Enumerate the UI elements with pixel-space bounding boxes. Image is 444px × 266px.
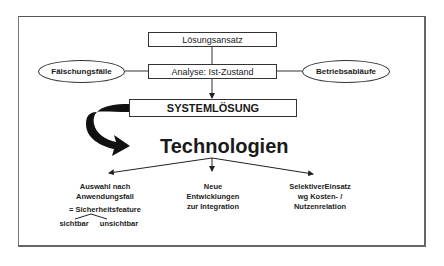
curved-arrow-icon	[86, 104, 130, 156]
branch-2-line-1: Neue	[182, 182, 244, 192]
forgery-cases-label: Fälschungsfälle	[51, 67, 111, 76]
branch-3-line-1: SelektiverEinsatz	[282, 182, 358, 192]
operations-ellipse: Betriebsabläufe	[302, 60, 390, 83]
forgery-cases-ellipse: Fälschungsfälle	[38, 60, 125, 83]
branch-selection-by-use-case: Auswahl nach Anwendungsfall = Sicherheit…	[60, 182, 150, 215]
branch-1-note: = Sicherheitsfeature	[60, 205, 150, 215]
invisible-label: unsichtbar	[98, 219, 140, 229]
branch-new-developments: Neue Entwicklungen zur Integration	[182, 182, 244, 212]
system-solution-label: SYSTEMLÖSUNG	[167, 102, 259, 114]
branch-2-line-3: zur Integration	[182, 202, 244, 212]
visible-label: sichtbar	[58, 219, 90, 229]
branch-3-line-2: wg Kosten- /	[282, 192, 358, 202]
solution-approach-label: Lösungsansatz	[182, 35, 243, 45]
analysis-box: Analyse: Ist-Zustand	[148, 64, 277, 79]
branch-selective-use: SelektiverEinsatz wg Kosten- / Nutzenrel…	[282, 182, 358, 212]
branch-2-line-2: Entwicklungen	[182, 192, 244, 202]
branch-1-line-1: Auswahl nach	[60, 182, 150, 192]
branch-3-line-3: Nutzenrelation	[282, 202, 358, 212]
operations-label: Betriebsabläufe	[316, 67, 376, 76]
system-solution-box: SYSTEMLÖSUNG	[129, 99, 297, 117]
analysis-label: Analyse: Ist-Zustand	[171, 67, 253, 77]
branch-1-line-2: Anwendungsfall	[60, 192, 150, 202]
solution-approach-box: Lösungsansatz	[148, 32, 277, 47]
technologies-title: Technologien	[160, 135, 278, 158]
